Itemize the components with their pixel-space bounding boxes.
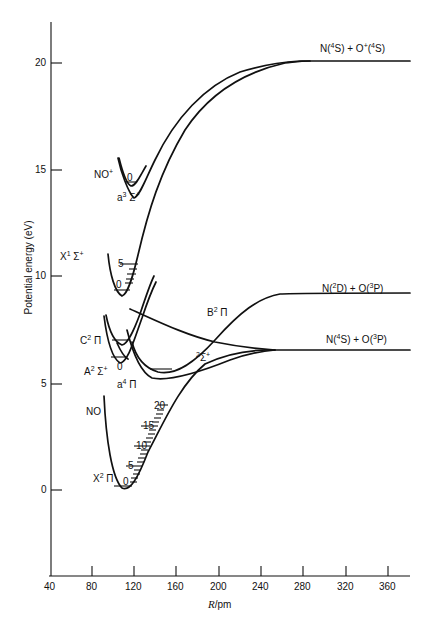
label-no: NO <box>86 407 101 417</box>
label-sup: + <box>104 365 108 372</box>
label-text: B <box>207 307 214 318</box>
label-vib-no-plus-0: 0 <box>127 173 133 183</box>
label-symbol: Π <box>104 473 114 484</box>
label-text: X <box>60 251 67 262</box>
y-tick-label-20: 20 <box>35 58 46 68</box>
label-asymptote-n2d-o3p: N(2D) + O(3P) <box>322 284 383 294</box>
label-symbol: Σ <box>71 251 80 262</box>
label-asymptote-n4s-o-plus-4s: N(4S) + O+(4S) <box>320 44 385 54</box>
label-text: P) <box>377 334 387 345</box>
x-tick-label-280: 280 <box>294 582 311 592</box>
x-axis-title-unit: /pm <box>215 599 232 610</box>
label-text: N( <box>326 334 337 345</box>
x-axis-title-symbol: R <box>208 598 215 610</box>
label-text: P) <box>373 283 383 294</box>
x-tick-label-160: 160 <box>167 582 184 592</box>
label-sup: + <box>80 250 84 257</box>
label-x1-sigma-plus: X1 Σ+ <box>60 252 84 262</box>
y-tick-label-10: 10 <box>35 271 46 281</box>
label-vib-x2-20: 20 <box>154 401 165 411</box>
label-vib-a2-0: 0 <box>117 362 123 372</box>
label-text: X <box>93 473 100 484</box>
x-tick-label-120: 120 <box>125 582 142 592</box>
curve-a2-sigma-plus <box>104 282 156 363</box>
y-tick-label-15: 15 <box>35 165 46 175</box>
label-text: S) <box>375 43 385 54</box>
label-vib-x1-0: 0 <box>116 280 122 290</box>
label-a3-sigma-plus: a3 Σ+ <box>117 193 140 203</box>
label-text: S) + O <box>334 43 363 54</box>
y-tick-label-0: 0 <box>41 485 47 495</box>
label-text: A <box>84 366 91 377</box>
label-a2-sigma-plus: A2 Σ+ <box>84 367 108 377</box>
x-tick-label-360: 360 <box>379 582 396 592</box>
label-text: N( <box>320 43 331 54</box>
x-tick-label-200: 200 <box>210 582 227 592</box>
label-text: S) + O( <box>340 334 373 345</box>
label-text: N( <box>322 283 333 294</box>
label-sup: + <box>109 168 113 175</box>
label-vib-x2-5: 5 <box>128 461 134 471</box>
y-tick-label-5: 5 <box>41 379 47 389</box>
label-vib-x1-5: 5 <box>118 259 124 269</box>
label-asymptote-n4s-o3p: N(4S) + O(3P) <box>326 335 387 345</box>
axes <box>49 22 410 576</box>
curve-b2-pi <box>132 293 410 373</box>
label-symbol: Π <box>218 307 228 318</box>
x-axis-title: R/pm <box>208 598 231 610</box>
label-no-plus: NO+ <box>94 170 113 180</box>
label-sup: + <box>206 351 210 358</box>
label-vib-x2-10: 10 <box>136 441 147 451</box>
label-text: D) + O( <box>336 283 369 294</box>
label-x2-pi: X2 Π <box>93 474 114 484</box>
label-b2-pi: B2 Π <box>207 308 228 318</box>
label-symbol: Σ <box>95 366 104 377</box>
x-tick-label-80: 80 <box>86 582 97 592</box>
x-tick-label-40: 40 <box>44 582 55 592</box>
label-symbol: Π <box>126 379 136 390</box>
label-2-sigma-plus: 2Σ+ <box>196 353 210 363</box>
x-tick-label-320: 320 <box>337 582 354 592</box>
label-vib-x2-15: 15 <box>143 421 154 431</box>
label-vib-x2-0: 0 <box>123 477 129 487</box>
label-text: NO <box>94 169 109 180</box>
x-tick-label-240: 240 <box>252 582 269 592</box>
label-sup: + <box>135 191 139 198</box>
curve-c2-pi <box>106 276 154 345</box>
label-a4-pi: a4 Π <box>117 380 136 390</box>
y-axis-title: Potential energy (eV) <box>23 218 34 318</box>
curve-2-sigma-plus <box>130 309 275 350</box>
label-symbol: Π <box>91 335 101 346</box>
label-c2-pi: C2 Π <box>80 336 101 346</box>
